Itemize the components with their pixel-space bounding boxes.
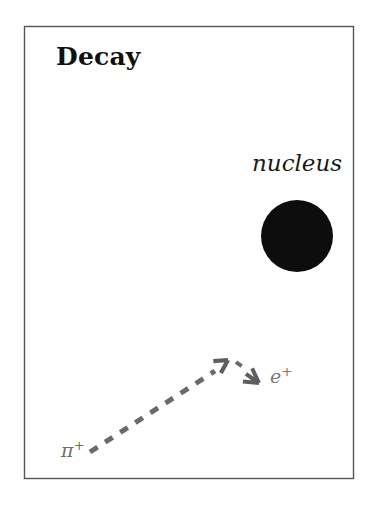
positron-symbol: e <box>270 365 281 387</box>
pion-charge-superscript: + <box>74 437 85 453</box>
pion-symbol: π <box>61 439 74 461</box>
pion-label: π+ <box>61 441 85 460</box>
page-title: Decay <box>56 44 141 69</box>
positron-charge-superscript: + <box>281 363 292 379</box>
nucleus-blob <box>261 200 333 272</box>
decay-figure: Decay nucleus π+ e+ <box>0 0 369 505</box>
decay-diagram-canvas <box>0 0 369 505</box>
nucleus-label: nucleus <box>252 152 342 175</box>
positron-label: e+ <box>270 367 293 386</box>
